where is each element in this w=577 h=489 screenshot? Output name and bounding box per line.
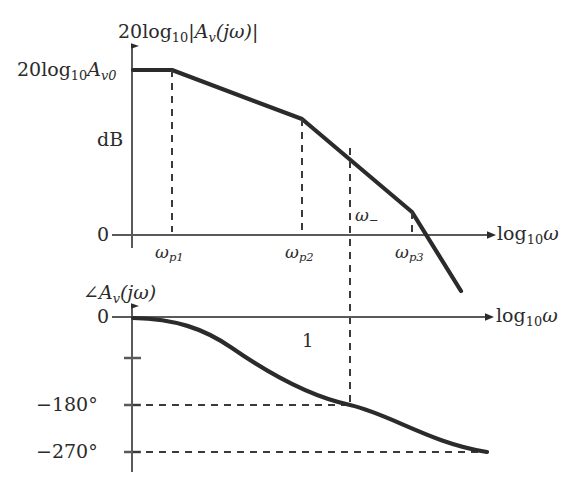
phase-tick-label-minus270: −270° bbox=[36, 442, 98, 461]
breakpoint-label-wp1: ωp1 bbox=[155, 244, 184, 264]
phase-y-axis-title: ∠Av(jω) bbox=[83, 283, 156, 306]
magnitude-y-axis-title: 20log10|Av(jω)| bbox=[118, 22, 258, 45]
magnitude-zero-label: 0 bbox=[97, 225, 109, 244]
magnitude-unit-label: dB bbox=[97, 130, 123, 149]
phase-tick-label-0: 0 bbox=[97, 307, 109, 326]
phase-plot-group bbox=[112, 306, 487, 472]
breakpoint-label-wp3: ωp3 bbox=[395, 244, 424, 264]
magnitude-x-axis-label: log10ω bbox=[497, 224, 559, 247]
bode-plot-figure: 20log10|Av(jω)| 20log10Av0 dB 0 log10ω ω… bbox=[0, 0, 577, 489]
phase-annotation-1: 1 bbox=[302, 332, 313, 350]
omega-minus-label: ω− bbox=[355, 207, 379, 227]
magnitude-dc-gain-label: 20log10Av0 bbox=[17, 60, 117, 83]
phase-x-axis-label: log10ω bbox=[496, 306, 558, 329]
phase-tick-label-minus180: −180° bbox=[36, 395, 98, 414]
breakpoint-label-wp2: ωp2 bbox=[285, 244, 314, 264]
